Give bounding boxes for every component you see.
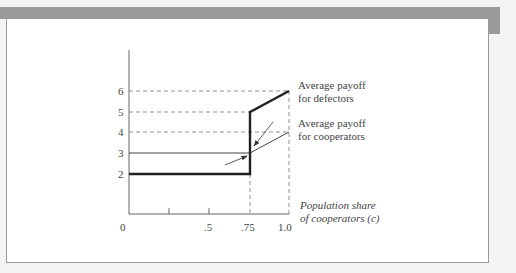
y-label-6: 6 xyxy=(118,85,124,97)
y-label-4: 4 xyxy=(118,126,124,138)
defectors-label-line2: for defectors xyxy=(298,92,354,104)
x-axis-title-line2: of cooperators (c) xyxy=(300,212,380,225)
payoff-chart: 6 5 4 3 2 0 .5 .75 1.0 Average payoff fo… xyxy=(0,0,516,273)
y-label-3: 3 xyxy=(118,147,124,159)
series-cooperators xyxy=(129,132,289,153)
x-label-10: 1.0 xyxy=(278,221,292,233)
x-axis-title-line1: Population share xyxy=(299,199,376,211)
y-label-2: 2 xyxy=(118,168,124,180)
arrow-up-icon xyxy=(225,156,247,165)
x-label-075: .75 xyxy=(241,221,255,233)
x-label-0: 0 xyxy=(120,221,126,233)
cooperators-label-line1: Average payoff xyxy=(298,117,366,129)
y-label-5: 5 xyxy=(118,106,124,118)
defectors-label-line1: Average payoff xyxy=(298,79,366,91)
cooperators-label-line2: for cooperators xyxy=(298,130,365,142)
x-label-05: .5 xyxy=(204,221,213,233)
